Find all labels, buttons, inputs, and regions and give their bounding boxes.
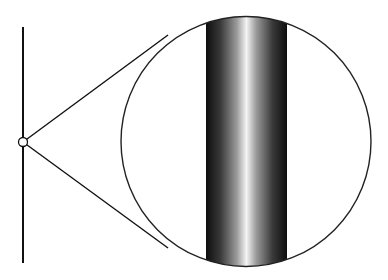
tangent-line-top bbox=[23, 35, 168, 142]
diagram-figure bbox=[0, 0, 388, 280]
magnified-cylinder bbox=[206, 15, 287, 269]
magnification-diagram bbox=[0, 0, 388, 280]
magnified-point-marker bbox=[19, 138, 28, 147]
tangent-line-bottom bbox=[23, 142, 168, 248]
